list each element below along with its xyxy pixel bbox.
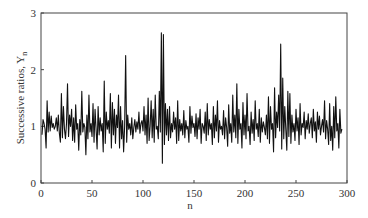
x-tick-label: 300 [339,187,356,199]
x-tick-label: 200 [237,187,254,199]
y-tick-label: 3 [31,7,37,19]
y-tick-label: 0 [31,177,37,189]
x-axis-label: n [187,199,193,211]
x-tick-label: 100 [135,187,152,199]
line-chart: 0123 050100150200250300 n Successive rat… [0,0,368,218]
y-axis-label: Successive ratios, Yn [14,52,29,145]
x-tick-label: 50 [87,187,99,199]
y-tick-label: 1 [31,120,37,132]
plot-frame [41,13,347,183]
x-tick-label: 250 [288,187,305,199]
x-tick-label: 0 [38,187,44,199]
x-tick-label: 150 [186,187,203,199]
y-tick-label: 2 [31,64,37,76]
